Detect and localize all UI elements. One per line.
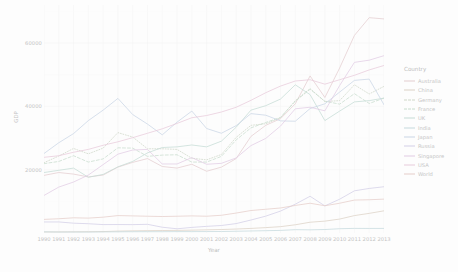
- x-tick-label: 1999: [170, 236, 183, 242]
- x-tick-label: 1992: [67, 236, 80, 242]
- legend-item-australia[interactable]: Australia: [404, 77, 458, 86]
- x-tick-label: 2001: [200, 236, 213, 242]
- legend-item-label: Singapore: [418, 153, 444, 159]
- x-tick-label: 1994: [97, 236, 110, 242]
- legend-key-icon: [404, 87, 415, 94]
- x-tick-label: 2013: [377, 236, 390, 242]
- legend-key-icon: [404, 143, 415, 150]
- y-axis-title: GDP: [13, 111, 19, 123]
- legend-key-icon: [404, 106, 415, 113]
- legend-item-india[interactable]: India: [404, 123, 458, 132]
- legend-key-icon: [404, 133, 415, 140]
- legend-item-japan[interactable]: Japan: [404, 132, 458, 141]
- x-tick-label: 2011: [348, 236, 361, 242]
- legend-item-label: Australia: [418, 78, 441, 84]
- y-axis-title-wrap: GDP: [10, 0, 22, 233]
- legend-item-label: France: [418, 106, 435, 112]
- x-tick-label: 2008: [303, 236, 316, 242]
- legend-key-icon: [404, 96, 415, 103]
- legend-item-singapore[interactable]: Singapore: [404, 151, 458, 160]
- x-tick-label: 2012: [363, 236, 376, 242]
- chart-screenshot: GDP 200004000060000 19901991199219931994…: [0, 0, 458, 272]
- legend-entries: AustraliaChinaGermanyFranceUKIndiaJapanR…: [404, 77, 458, 179]
- x-axis-title: Year: [208, 247, 220, 253]
- legend-key-icon: [404, 161, 415, 168]
- legend-item-russia[interactable]: Russia: [404, 142, 458, 151]
- x-tick-label: 2003: [230, 236, 243, 242]
- legend-item-label: UK: [418, 115, 425, 121]
- legend: Country AustraliaChinaGermanyFranceUKInd…: [404, 66, 458, 179]
- legend-item-label: Germany: [418, 97, 442, 103]
- y-tick-label: 60000: [25, 40, 42, 46]
- legend-item-label: China: [418, 87, 433, 93]
- legend-key-icon: [404, 152, 415, 159]
- plot-panel: [44, 5, 384, 233]
- legend-item-china[interactable]: China: [404, 86, 458, 95]
- legend-item-france[interactable]: France: [404, 104, 458, 113]
- legend-title: Country: [404, 66, 458, 72]
- x-tick-label: 1998: [156, 236, 169, 242]
- x-tick-label: 1991: [52, 236, 65, 242]
- legend-item-label: India: [418, 125, 431, 131]
- y-tick-label: 20000: [25, 167, 42, 173]
- x-tick-label: 2004: [244, 236, 257, 242]
- legend-item-uk[interactable]: UK: [404, 114, 458, 123]
- x-tick-label: 2007: [289, 236, 302, 242]
- legend-key-icon: [404, 115, 415, 122]
- x-tick-label: 1996: [126, 236, 139, 242]
- x-tick-label: 2009: [318, 236, 331, 242]
- x-tick-label: 1990: [37, 236, 50, 242]
- legend-item-label: World: [418, 171, 433, 177]
- x-tick-label: 2010: [333, 236, 346, 242]
- legend-key-icon: [404, 124, 415, 131]
- x-tick-label: 1997: [141, 236, 154, 242]
- legend-key-icon: [404, 78, 415, 85]
- y-tick-label: 40000: [25, 103, 42, 109]
- legend-item-germany[interactable]: Germany: [404, 95, 458, 104]
- legend-key-icon: [404, 171, 415, 178]
- x-tick-label: 2005: [259, 236, 272, 242]
- legend-item-label: Russia: [418, 143, 435, 149]
- plot-svg: [44, 5, 384, 233]
- x-tick-label: 1993: [82, 236, 95, 242]
- legend-item-label: USA: [418, 162, 429, 168]
- x-tick-label: 2006: [274, 236, 287, 242]
- legend-item-label: Japan: [418, 134, 432, 140]
- x-tick-label: 1995: [111, 236, 124, 242]
- x-tick-label: 2002: [215, 236, 228, 242]
- legend-item-world[interactable]: World: [404, 169, 458, 178]
- legend-item-usa[interactable]: USA: [404, 160, 458, 169]
- x-tick-label: 2000: [185, 236, 198, 242]
